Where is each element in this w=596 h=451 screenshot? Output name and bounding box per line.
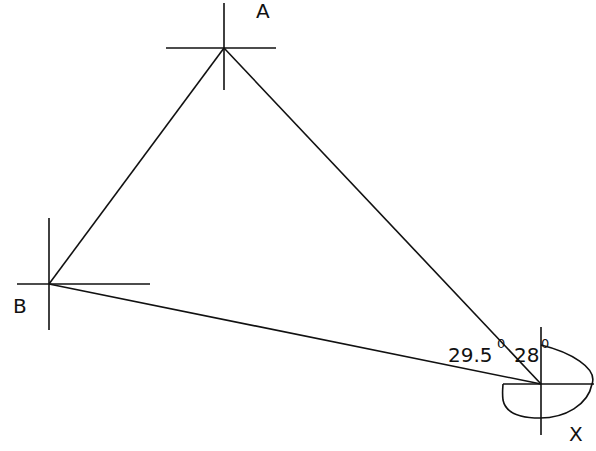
point-b-cross xyxy=(17,218,150,330)
label-x: X xyxy=(569,422,583,446)
label-a: A xyxy=(256,0,270,23)
edge-b-x xyxy=(49,284,541,384)
edge-a-b xyxy=(49,48,224,284)
label-b: B xyxy=(13,294,27,318)
angle-degree-sign-2: 0 xyxy=(541,336,549,351)
diagram-canvas: A B X 29.5 0 28 0 xyxy=(0,0,596,451)
edge-a-x xyxy=(224,48,541,384)
angle-label-28: 28 xyxy=(514,343,539,367)
angle-label-29-5: 29.5 xyxy=(448,343,493,367)
angle-degree-sign-1: 0 xyxy=(497,336,505,351)
